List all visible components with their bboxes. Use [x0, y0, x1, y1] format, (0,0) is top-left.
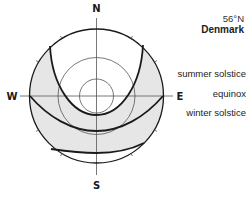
summer-solstice-label: summer solstice [177, 68, 246, 79]
west-label: W [6, 91, 17, 102]
country-label: Denmark [201, 24, 244, 35]
north-label: N [92, 3, 100, 14]
winter-solstice-label: winter solstice [186, 107, 246, 118]
equinox-label: equinox [213, 88, 246, 99]
east-label: E [177, 91, 184, 102]
sun-path-band [20, 20, 175, 175]
south-label: S [93, 180, 100, 191]
latitude-label: 56°N [223, 13, 244, 24]
